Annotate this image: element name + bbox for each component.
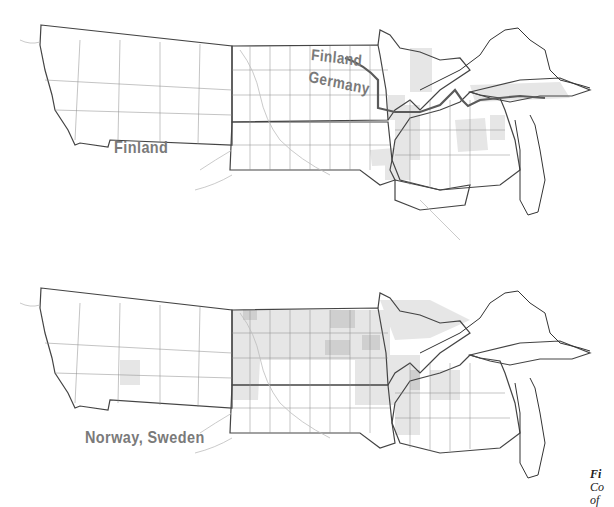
label-finland-west: Finland	[114, 138, 168, 158]
label-norway-sweden: Norway, Sweden	[85, 428, 205, 448]
shaded-counties	[120, 300, 470, 435]
map-finland-germany: Finland Finland Germany	[0, 0, 614, 250]
figure-caption: Fi Co of	[590, 468, 604, 507]
caption-line-3: of	[590, 494, 604, 507]
map-graphic-top	[0, 0, 614, 250]
map-norway-sweden: Norway, Sweden	[0, 260, 614, 504]
county-lines	[45, 40, 510, 188]
map-graphic-bottom	[0, 260, 614, 504]
